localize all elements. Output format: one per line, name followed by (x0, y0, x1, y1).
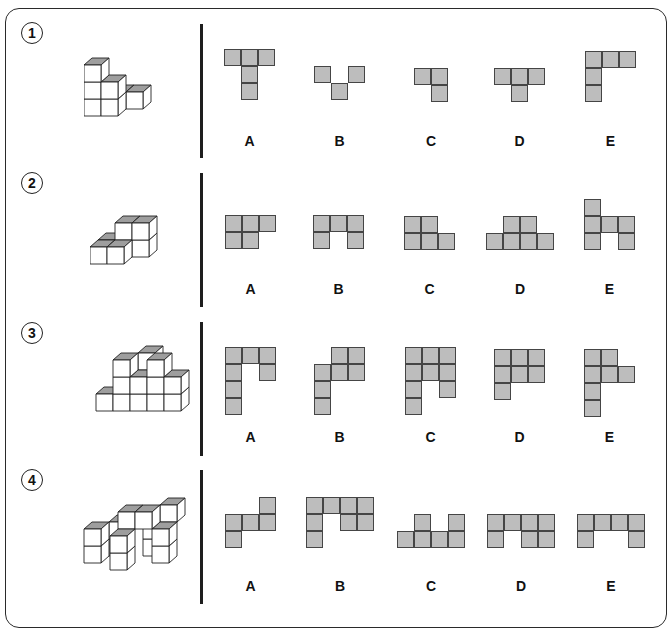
grid-square (438, 233, 455, 250)
grid-square (503, 216, 520, 233)
option-4-E[interactable] (577, 514, 645, 548)
grid-square (414, 514, 431, 531)
grid-square (225, 347, 242, 364)
option-4-D[interactable] (487, 514, 555, 548)
grid-square (494, 68, 511, 85)
option-2-D[interactable] (486, 216, 554, 250)
option-label-C: C (410, 281, 450, 297)
grid-square (405, 381, 422, 398)
grid-square (348, 364, 365, 381)
cube (84, 58, 109, 82)
option-label-A: A (230, 133, 270, 149)
option-label-A: A (231, 281, 271, 297)
grid-square (520, 233, 537, 250)
grid-square (494, 383, 511, 400)
grid-square (584, 366, 601, 383)
grid-square (241, 66, 258, 83)
option-1-C[interactable] (414, 68, 448, 102)
cube (147, 353, 172, 377)
grid-square (241, 83, 258, 100)
option-label-C: C (411, 429, 451, 445)
grid-square (306, 514, 323, 531)
grid-square (584, 349, 601, 366)
option-1-D[interactable] (494, 68, 545, 102)
cube (107, 240, 132, 264)
grid-square (628, 531, 645, 548)
option-3-D[interactable] (494, 349, 545, 400)
grid-square (601, 366, 618, 383)
option-label-E: E (591, 578, 631, 594)
cube (135, 505, 160, 529)
option-4-B[interactable] (306, 497, 374, 548)
option-1-E[interactable] (585, 51, 636, 102)
option-2-C[interactable] (404, 216, 455, 250)
option-3-A[interactable] (225, 347, 276, 415)
grid-square (331, 364, 348, 381)
grid-square (618, 233, 635, 250)
grid-square (225, 531, 242, 548)
grid-square (584, 199, 601, 216)
grid-square (259, 364, 276, 381)
option-3-B[interactable] (314, 347, 365, 415)
grid-square (487, 531, 504, 548)
grid-square (397, 531, 414, 548)
grid-square (405, 347, 422, 364)
grid-square (585, 68, 602, 85)
grid-square (348, 347, 365, 364)
option-4-C[interactable] (397, 514, 465, 548)
grid-square (323, 497, 340, 514)
grid-square (404, 233, 421, 250)
grid-square (357, 497, 374, 514)
option-label-B: B (320, 578, 360, 594)
option-label-B: B (319, 281, 359, 297)
grid-square (431, 68, 448, 85)
grid-square (414, 68, 431, 85)
option-1-A[interactable] (224, 49, 275, 100)
grid-square (347, 232, 364, 249)
grid-square (259, 514, 276, 531)
grid-square (431, 531, 448, 548)
cube (132, 216, 157, 240)
grid-square (601, 216, 618, 233)
grid-square (628, 514, 645, 531)
grid-square (487, 514, 504, 531)
grid-square (618, 216, 635, 233)
option-2-B[interactable] (313, 215, 364, 249)
grid-square (494, 349, 511, 366)
option-1-B[interactable] (314, 66, 365, 100)
grid-square (313, 232, 330, 249)
cube (126, 85, 151, 109)
option-2-E[interactable] (584, 199, 635, 250)
grid-square (585, 51, 602, 68)
option-3-E[interactable] (584, 349, 635, 417)
grid-square (601, 349, 618, 366)
option-label-C: C (411, 133, 451, 149)
grid-square (521, 531, 538, 548)
grid-square (259, 497, 276, 514)
option-4-A[interactable] (225, 497, 276, 548)
grid-square (537, 233, 554, 250)
grid-square (314, 398, 331, 415)
option-label-B: B (320, 429, 360, 445)
question-number-2: 2 (21, 172, 43, 194)
grid-square (422, 364, 439, 381)
grid-square (448, 531, 465, 548)
grid-square (225, 232, 242, 249)
grid-square (584, 400, 601, 417)
grid-square (348, 66, 365, 83)
option-label-C: C (411, 578, 451, 594)
grid-square (511, 366, 528, 383)
option-label-D: D (500, 429, 540, 445)
grid-square (242, 232, 259, 249)
option-3-C[interactable] (405, 347, 456, 415)
grid-square (224, 49, 241, 66)
cube-figure-2 (90, 205, 210, 309)
option-2-A[interactable] (225, 215, 276, 249)
grid-square (422, 347, 439, 364)
grid-square (241, 49, 258, 66)
grid-square (439, 364, 456, 381)
grid-square (448, 514, 465, 531)
grid-square (242, 215, 259, 232)
grid-square (503, 233, 520, 250)
grid-square (577, 531, 594, 548)
